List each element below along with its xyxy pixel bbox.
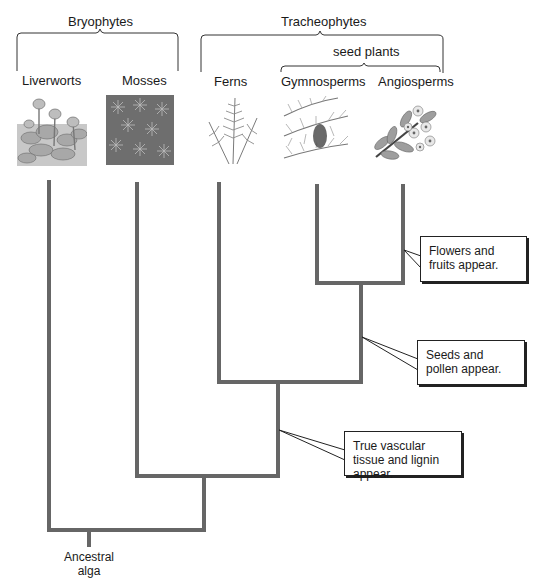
- group-brackets: [17, 29, 443, 73]
- callout-flowers-fruits: Flowers and fruits appear.: [420, 236, 527, 282]
- callout-seeds-pollen: Seeds and pollen appear.: [417, 340, 525, 385]
- root-label-line2: alga: [54, 564, 124, 578]
- root-label-ancestral-alga: Ancestral alga: [54, 550, 124, 578]
- root-label-line1: Ancestral: [54, 550, 124, 564]
- branches: [49, 180, 403, 547]
- cladogram-tree: [0, 0, 542, 588]
- callout-vascular-tissue: True vascular tissue and lignin appear.: [344, 431, 462, 476]
